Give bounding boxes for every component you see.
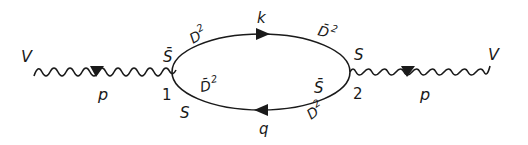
- label-sbar-vertex2: S̄: [314, 78, 324, 97]
- label-v-right: V: [488, 45, 500, 64]
- svg-text:D̄: D̄: [316, 22, 331, 41]
- svg-text:2: 2: [210, 73, 218, 85]
- label-d2-bottom-right: D 2: [302, 97, 327, 123]
- label-v-left: V: [21, 47, 33, 66]
- feynman-diagram: V V p p 1 2 k q S̄ S S S̄ D 2 D̄ 2 D̄ 2 …: [0, 0, 528, 145]
- top-arrow-icon: [256, 28, 270, 40]
- label-k: k: [257, 9, 267, 27]
- label-vertex-1: 1: [162, 86, 172, 104]
- label-p-right: p: [419, 85, 430, 104]
- label-dbar2-bottom-left: D̄ 2: [198, 73, 219, 95]
- label-s-vertex2-top: S: [354, 46, 364, 64]
- label-vertex-2: 2: [353, 85, 363, 103]
- label-s-vertex1-bottom: S: [180, 104, 190, 122]
- fermion-loop: [172, 34, 350, 110]
- svg-text:2: 2: [330, 23, 339, 35]
- bottom-arrow-icon: [254, 104, 268, 116]
- label-p-left: p: [97, 85, 108, 104]
- label-dbar2-top-right: D̄ 2: [316, 20, 339, 43]
- label-sbar-vertex1: S̄: [163, 47, 173, 66]
- label-q: q: [259, 120, 269, 138]
- right-wavy-line: [350, 66, 490, 75]
- left-wavy-line: [34, 68, 176, 76]
